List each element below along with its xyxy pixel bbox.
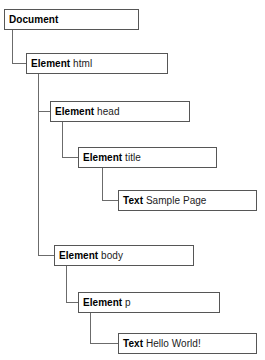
- connector-document-to-html-vertical: [12, 30, 13, 63]
- tree-node-document[interactable]: Document: [4, 9, 139, 30]
- connector-html-to-head-horizontal: [38, 111, 50, 112]
- tree-node-value: head: [94, 106, 119, 117]
- tree-node-value: Sample Page: [143, 195, 206, 206]
- connector-title-to-text-vertical: [102, 168, 103, 200]
- tree-node-text-hello-world[interactable]: TextHello World!: [118, 333, 257, 354]
- connector-head-to-title-horizontal: [62, 157, 78, 158]
- tree-node-value: p: [122, 297, 130, 308]
- tree-node-element-html[interactable]: Elementhtml: [26, 53, 168, 74]
- tree-node-type: Element: [83, 297, 122, 308]
- tree-node-value: body: [98, 250, 123, 261]
- connector-p-to-text-vertical: [90, 313, 91, 343]
- tree-node-text-sample-page[interactable]: TextSample Page: [118, 190, 257, 211]
- tree-node-element-head[interactable]: Elementhead: [50, 101, 190, 122]
- tree-node-type: Text: [123, 195, 143, 206]
- tree-node-element-p[interactable]: Elementp: [78, 292, 220, 313]
- connector-body-to-p-horizontal: [66, 302, 78, 303]
- connector-head-to-title-vertical: [62, 122, 63, 157]
- tree-node-type: Element: [31, 58, 70, 69]
- tree-node-type: Element: [59, 250, 98, 261]
- connector-html-to-body-vertical: [38, 74, 39, 255]
- tree-node-element-body[interactable]: Elementbody: [54, 245, 194, 266]
- tree-node-value: title: [122, 152, 141, 163]
- connector-body-to-p-vertical: [66, 266, 67, 302]
- connector-title-to-text-horizontal: [102, 200, 118, 201]
- connector-p-to-text-horizontal: [90, 343, 118, 344]
- tree-node-value: Hello World!: [143, 338, 201, 349]
- connector-document-to-html-horizontal: [12, 63, 26, 64]
- connector-html-to-body-horizontal: [38, 255, 54, 256]
- tree-node-type: Document: [9, 14, 58, 25]
- tree-node-type: Text: [123, 338, 143, 349]
- tree-node-type: Element: [55, 106, 94, 117]
- tree-node-element-title[interactable]: Elementtitle: [78, 147, 217, 168]
- tree-node-type: Element: [83, 152, 122, 163]
- dom-tree-diagram: DocumentElementhtmlElementheadElementtit…: [0, 0, 265, 360]
- tree-node-value: html: [70, 58, 92, 69]
